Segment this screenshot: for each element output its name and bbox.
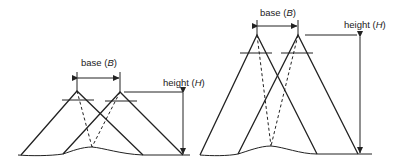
height-label: height (H) (163, 77, 205, 88)
ray-1 (257, 35, 271, 146)
height-label: height (H) (344, 19, 386, 30)
right-diagram: base (B) height (H) (200, 7, 386, 156)
ground-profile (18, 147, 190, 156)
stereo-base-height-diagram: base (B) height (H) base (B) height (H) (0, 0, 403, 167)
left-diagram: base (B) height (H) (18, 57, 205, 156)
base-label: base (B) (81, 57, 117, 68)
ground-profile (200, 146, 372, 156)
ray-1 (77, 91, 92, 147)
ray-2 (271, 35, 298, 146)
base-label: base (B) (260, 7, 296, 18)
